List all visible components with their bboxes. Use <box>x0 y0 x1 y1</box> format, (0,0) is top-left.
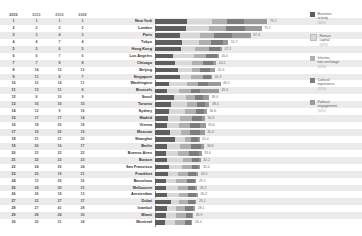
table-row[interactable]: 128109Seoul38.0 <box>0 94 362 101</box>
rank-cells: 10101411 <box>0 80 94 87</box>
rank-cell: 4 <box>71 39 94 46</box>
table-row[interactable]: 7788Chicago43.2 <box>0 60 362 67</box>
table-row[interactable]: 26261813Amsterdam30.2 <box>0 191 362 198</box>
city-label: Singapore <box>94 74 155 81</box>
table-row[interactable]: 91187Singapore40.3 <box>0 74 362 81</box>
stacked-bar[interactable] <box>155 54 219 59</box>
stacked-bar[interactable] <box>155 200 196 205</box>
table-row[interactable]: 13161615Toronto38.4 <box>0 101 362 108</box>
table-row[interactable]: 8141512Beijing42.4 <box>0 67 362 74</box>
table-row[interactable]: 18212120Shanghai31.4 <box>0 136 362 143</box>
stacked-bar[interactable] <box>155 151 202 156</box>
stacked-bar[interactable] <box>155 158 201 163</box>
table-row[interactable]: 29282430Miami26.9 <box>0 212 362 219</box>
bar-segment-business-activity <box>155 89 167 94</box>
stacked-bar[interactable] <box>155 40 228 45</box>
table-row[interactable]: 16182018Vienna35.6 <box>0 122 362 129</box>
legend-item-informa[interactable]: Informa-tion exchange(15%) <box>310 56 339 69</box>
rank-cell: 8 <box>48 60 71 67</box>
stacked-bar[interactable] <box>155 213 193 218</box>
bar-cell: 32.2 <box>155 157 362 164</box>
table-row[interactable]: 25243031Melbourne28.2 <box>0 185 362 192</box>
table-row[interactable]: 28274128Istanbul28.1 <box>0 205 362 212</box>
table-row[interactable]: 27322737Dubai29.2 <box>0 198 362 205</box>
bar-segment-business-activity <box>155 109 169 114</box>
total-score-label: 26.9 <box>196 212 203 219</box>
table-row[interactable]: 21222323Boston32.2 <box>0 157 362 164</box>
bar-segment-human-capital <box>169 109 185 114</box>
stacked-bar[interactable] <box>155 186 197 191</box>
table-row[interactable]: 2222London75.1 <box>0 25 362 32</box>
stacked-bar[interactable] <box>155 75 212 80</box>
rank-cell: 32 <box>71 178 94 185</box>
table-row[interactable]: 5565Hong Kong47.2 <box>0 46 362 53</box>
bar-cell: 30.2 <box>155 191 362 198</box>
legend-item-business[interactable]: Businessactivity(30%) <box>310 12 332 25</box>
table-row[interactable]: 4474Tokyo51.7 <box>0 39 362 46</box>
legend-item-cultural[interactable]: Culturalexperience(15%) <box>310 78 335 91</box>
rank-cell: 23 <box>48 157 71 164</box>
stacked-bar[interactable] <box>155 116 205 121</box>
table-row[interactable]: 1113119Brussels45.0 <box>0 87 362 94</box>
table-row[interactable]: 6676Los Angeles45.0 <box>0 53 362 60</box>
stacked-bar[interactable] <box>155 68 215 73</box>
table-row[interactable]: 23251921Frankfurt30.5 <box>0 171 362 178</box>
stacked-bar[interactable] <box>155 109 207 114</box>
legend-item-human[interactable]: Humancapital(30%) <box>310 34 331 47</box>
table-row[interactable]: 24122932Barcelona29.2 <box>0 178 362 185</box>
rank-cells: 19201617 <box>0 143 94 150</box>
city-label: Hong Kong <box>94 46 155 53</box>
stacked-bar[interactable] <box>155 47 222 52</box>
stacked-bar[interactable] <box>155 130 205 135</box>
stacked-bar[interactable] <box>155 19 267 24</box>
total-score-label: 75.1 <box>264 25 271 32</box>
rank-cell: 26 <box>2 191 25 198</box>
rank-cells: 6676 <box>0 53 94 60</box>
stacked-bar[interactable] <box>155 61 216 66</box>
rank-cells: 24122932 <box>0 178 94 185</box>
rank-cell: 24 <box>25 185 48 192</box>
rank-cell: 2 <box>2 25 25 32</box>
rank-cell: 29 <box>2 212 25 219</box>
bar-segment-political-engagement <box>193 206 195 211</box>
stacked-bar[interactable] <box>155 89 219 94</box>
stacked-bar[interactable] <box>155 137 200 142</box>
stacked-bar[interactable] <box>155 123 206 128</box>
table-row[interactable]: 10101411Washington46.2 <box>0 80 362 87</box>
rank-cell: 12 <box>25 178 48 185</box>
stacked-bar[interactable] <box>155 33 251 38</box>
stacked-bar[interactable] <box>155 144 204 149</box>
stacked-bar[interactable] <box>155 193 198 198</box>
stacked-bar[interactable] <box>155 26 262 31</box>
stacked-bar[interactable] <box>155 102 209 107</box>
table-row[interactable]: 1111New York79.2 <box>0 18 362 25</box>
bar-segment-cultural-experience <box>214 33 232 38</box>
rank-cell: 20 <box>25 143 48 150</box>
bar-segment-business-activity <box>155 47 181 52</box>
bar-cell: 31.4 <box>155 136 362 143</box>
table-row[interactable]: 15171714Madrid35.3 <box>0 115 362 122</box>
table-row[interactable]: 30303134Montreal26.4 <box>0 219 362 226</box>
stacked-bar[interactable] <box>155 82 221 87</box>
legend-item-political[interactable]: Politicalengagement(10%) <box>310 100 337 113</box>
table-row[interactable]: 20232222Buenos Aires33.0 <box>0 150 362 157</box>
bar-segment-human-capital <box>175 137 185 142</box>
table-row[interactable]: 19201617Berlin34.8 <box>0 143 362 150</box>
rank-cells: 3343 <box>0 32 94 39</box>
stacked-bar[interactable] <box>155 165 200 170</box>
rank-cell: 6 <box>48 46 71 53</box>
stacked-bar[interactable] <box>155 206 195 211</box>
rank-cell: 24 <box>2 178 25 185</box>
bar-segment-political-engagement <box>205 102 210 107</box>
stacked-bar[interactable] <box>155 95 209 100</box>
table-row[interactable]: 1412916Sydney36.6 <box>0 108 362 115</box>
total-score-label: 47.2 <box>225 46 232 53</box>
table-row[interactable]: 17192519Moscow35.0 <box>0 129 362 136</box>
table-row[interactable]: 22242624San Francisco32.0 <box>0 164 362 171</box>
stacked-bar[interactable] <box>155 179 196 184</box>
bar-segment-information-exchange <box>192 61 203 66</box>
bar-segment-political-engagement <box>208 82 221 87</box>
stacked-bar[interactable] <box>155 220 192 225</box>
stacked-bar[interactable] <box>155 172 198 177</box>
table-row[interactable]: 3343Paris67.4 <box>0 32 362 39</box>
